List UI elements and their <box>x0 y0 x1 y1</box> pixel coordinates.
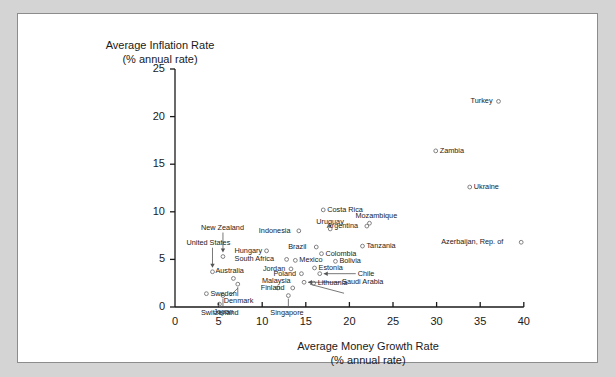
data-point-marker <box>365 224 369 228</box>
data-point-marker <box>291 286 295 290</box>
label-leader-arrow <box>324 271 328 275</box>
axes-and-data <box>18 14 597 362</box>
data-point-label: Tanzania <box>366 241 395 250</box>
x-tick-label: 35 <box>467 315 493 327</box>
y-tick-label: 15 <box>139 157 165 169</box>
data-point-marker <box>313 266 317 270</box>
data-point-label: Ukraine <box>474 182 499 191</box>
data-point-label: Argentina <box>327 221 358 230</box>
data-point-marker <box>297 229 301 233</box>
data-point-marker <box>204 292 208 296</box>
x-tick-label: 40 <box>511 315 537 327</box>
data-point-label: Sweden <box>210 289 236 298</box>
data-point-label: Mozambique <box>355 211 397 220</box>
y-tick-label: 5 <box>139 252 165 264</box>
data-point-marker <box>434 149 438 153</box>
x-tick-label: 5 <box>206 315 232 327</box>
data-point-label: Japan <box>213 307 233 316</box>
data-point-marker <box>468 185 472 189</box>
data-point-marker <box>293 258 297 262</box>
data-point-marker <box>221 255 225 259</box>
y-tick-label: 20 <box>139 110 165 122</box>
data-point-label: Singapore <box>270 308 303 317</box>
y-tick-label: 0 <box>139 300 165 312</box>
data-point-label: Finland <box>261 283 285 292</box>
x-tick-label: 25 <box>380 315 406 327</box>
data-point-marker <box>300 272 304 276</box>
data-point-marker <box>318 272 322 276</box>
x-tick-label: 0 <box>162 315 188 327</box>
figure-panel: Average Inflation Rate (% annual rate) A… <box>17 13 598 363</box>
x-tick-label: 20 <box>336 315 362 327</box>
data-point-marker <box>211 270 215 274</box>
label-leader-arrow <box>210 264 214 268</box>
data-point-marker <box>285 258 289 262</box>
data-point-label: South Africa <box>235 254 274 263</box>
label-leader-arrow <box>221 249 225 253</box>
data-point-label: New Zealand <box>201 223 244 232</box>
data-point-label: Zambia <box>440 146 464 155</box>
data-point-marker <box>497 99 501 103</box>
x-tick-label: 30 <box>424 315 450 327</box>
scatter-plot: Average Inflation Rate (% annual rate) A… <box>18 14 597 362</box>
data-point-marker <box>265 249 269 253</box>
data-point-marker <box>236 282 240 286</box>
data-point-label: Brazil <box>288 242 306 251</box>
data-point-label: United States <box>186 238 230 247</box>
y-tick-label: 10 <box>139 205 165 217</box>
data-point-label: Estonia <box>319 263 343 272</box>
data-point-label: Indonesia <box>259 226 291 235</box>
data-point-label: Australia <box>215 266 243 275</box>
x-tick-label: 15 <box>293 315 319 327</box>
data-point-marker <box>302 280 306 284</box>
data-point-marker <box>361 244 365 248</box>
data-point-marker <box>519 240 523 244</box>
data-point-marker <box>232 277 236 281</box>
data-point-marker <box>321 208 325 212</box>
x-tick-label: 10 <box>249 315 275 327</box>
data-point-marker <box>314 245 318 249</box>
data-point-label: Azerbaijan, Rep. of <box>441 237 503 246</box>
data-point-marker <box>286 294 290 298</box>
label-leader-arrow <box>308 280 312 284</box>
y-tick-label: 25 <box>139 62 165 74</box>
data-point-label: Turkey <box>471 96 493 105</box>
data-point-label: Saudi Arabia <box>342 277 383 286</box>
